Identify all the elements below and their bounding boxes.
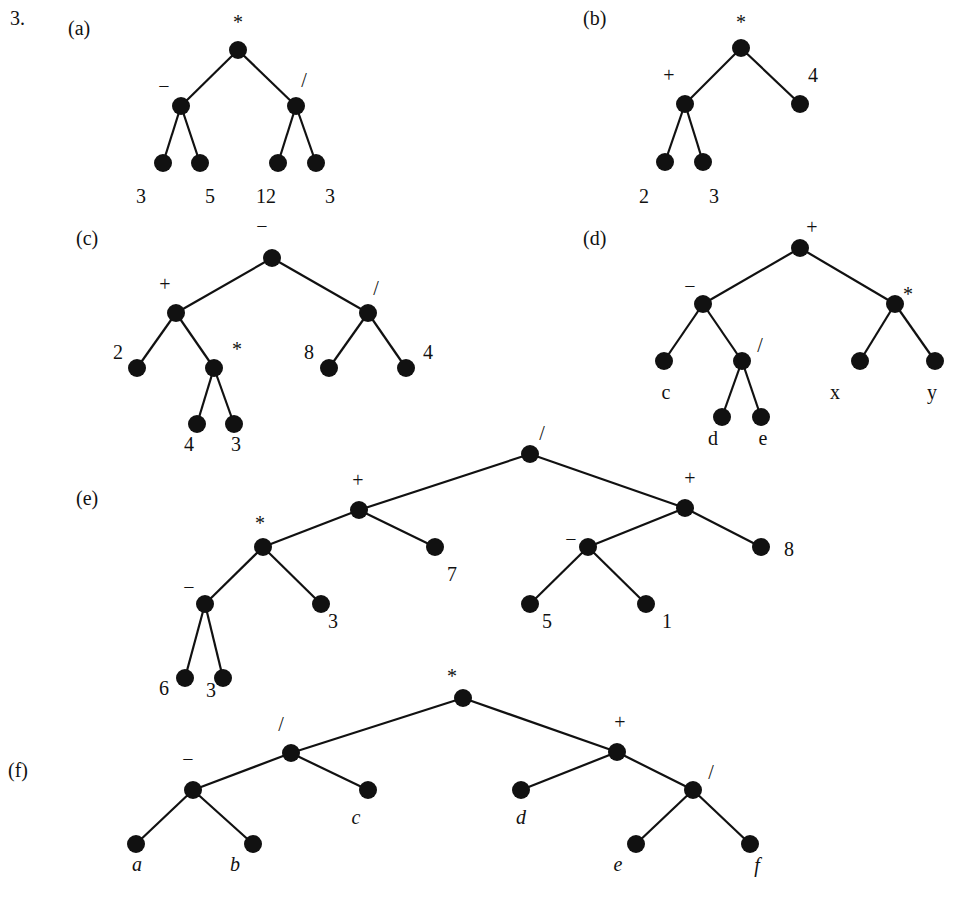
- tree-f: [127, 689, 759, 853]
- operator-label: +: [684, 468, 695, 488]
- tree-edge: [205, 547, 263, 604]
- operator-label: /: [539, 423, 545, 443]
- operator-label: +: [663, 65, 674, 85]
- tree-node: [926, 352, 944, 370]
- tree-edge: [368, 313, 406, 368]
- tree-node: [713, 408, 731, 426]
- tree-edge: [685, 508, 761, 547]
- operator-label: *: [447, 666, 457, 686]
- operand-label: 12: [256, 186, 276, 206]
- operand-label: 3: [231, 434, 241, 454]
- tree-d: [655, 239, 944, 426]
- tree-edge: [703, 304, 742, 361]
- tree-node: [205, 359, 223, 377]
- tree-edge: [636, 790, 693, 844]
- operand-label: 5: [205, 186, 215, 206]
- operand-label: 3: [325, 186, 335, 206]
- tree-edge: [238, 50, 296, 106]
- operand-label: 6: [159, 678, 169, 698]
- tree-node: [254, 538, 272, 556]
- operand-label: y: [927, 382, 937, 402]
- tree-node: [225, 415, 243, 433]
- operand-label: 5: [542, 611, 552, 631]
- tree-edges: [0, 0, 954, 899]
- operator-label: /: [708, 762, 714, 782]
- operand-label: 7: [447, 564, 457, 584]
- tree-b: [656, 39, 809, 171]
- tree-edge: [530, 454, 685, 508]
- tree-node: [350, 501, 368, 519]
- tree-node: [127, 835, 145, 853]
- tree-node: [191, 154, 209, 172]
- operand-label: 4: [184, 434, 194, 454]
- tree-node: [733, 352, 751, 370]
- tree-edge: [329, 313, 368, 368]
- tree-node: [287, 97, 305, 115]
- tree-edge: [296, 106, 316, 163]
- tree-node: [579, 538, 597, 556]
- operand-label: 3: [136, 186, 146, 206]
- operand-label: e: [614, 854, 623, 874]
- operand-label: c: [662, 382, 671, 402]
- tree-c: [128, 249, 415, 433]
- tree-edge: [860, 304, 895, 361]
- tree-node: [282, 744, 300, 762]
- tree-node: [637, 595, 655, 613]
- tree-node: [676, 95, 694, 113]
- operand-label: a: [132, 854, 142, 874]
- tree-node: [214, 669, 232, 687]
- operator-label: +: [806, 217, 817, 237]
- tree-node: [454, 689, 472, 707]
- operator-label: /: [278, 714, 284, 734]
- tree-edge: [176, 313, 214, 368]
- tree-e: [176, 445, 770, 687]
- operand-label: 4: [423, 342, 433, 362]
- tree-node: [676, 499, 694, 517]
- operator-label: *: [232, 339, 242, 359]
- tree-node: [244, 835, 262, 853]
- tree-node: [512, 781, 530, 799]
- tree-edge: [703, 248, 800, 304]
- tree-node: [184, 781, 202, 799]
- tree-node: [397, 359, 415, 377]
- expression-trees-figure: 3. (a)*−/35123(b)*+423(c)−+/2*8443(d)+−*…: [0, 0, 954, 899]
- operand-label: 4: [808, 65, 818, 85]
- part-label: (e): [76, 488, 98, 508]
- tree-node: [608, 743, 626, 761]
- tree-node: [752, 408, 770, 426]
- tree-edge: [685, 104, 703, 162]
- tree-node: [172, 97, 190, 115]
- tree-edge: [185, 604, 205, 678]
- tree-edge: [181, 106, 200, 163]
- operator-label: *: [233, 12, 243, 32]
- operator-label: *: [255, 513, 265, 533]
- operator-label: −: [256, 216, 267, 236]
- tree-edge: [291, 753, 368, 790]
- operator-label: −: [182, 749, 193, 769]
- operator-label: −: [684, 276, 695, 296]
- tree-node: [684, 781, 702, 799]
- operator-label: /: [757, 335, 763, 355]
- tree-edge: [463, 698, 617, 752]
- tree-node: [196, 595, 214, 613]
- tree-edge: [664, 304, 703, 361]
- tree-edge: [272, 258, 368, 313]
- tree-node: [154, 154, 172, 172]
- tree-edge: [205, 604, 223, 678]
- tree-node: [263, 249, 281, 267]
- tree-a: [154, 41, 325, 172]
- tree-node: [167, 304, 185, 322]
- tree-node: [307, 154, 325, 172]
- tree-edge: [895, 304, 935, 361]
- operator-label: /: [301, 70, 307, 90]
- tree-node: [694, 295, 712, 313]
- operand-label: c: [352, 807, 361, 827]
- tree-edge: [137, 313, 176, 368]
- operand-label: 2: [113, 342, 123, 362]
- operand-label: e: [759, 428, 768, 448]
- tree-node: [359, 781, 377, 799]
- tree-node: [176, 669, 194, 687]
- part-label: (c): [76, 228, 98, 248]
- tree-node: [851, 352, 869, 370]
- part-label: (a): [68, 18, 90, 38]
